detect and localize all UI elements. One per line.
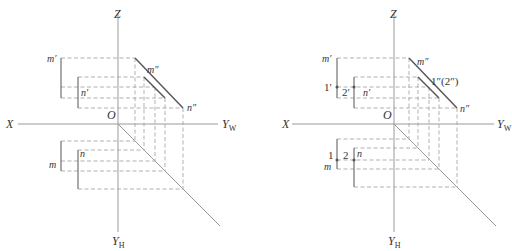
label-n-prime: n′ xyxy=(363,87,371,98)
z-axis-label: Z xyxy=(114,7,121,21)
label-n: n xyxy=(357,148,362,159)
label-2: 2 xyxy=(343,149,349,161)
label-n-double-prime: n″ xyxy=(187,102,197,113)
label-m-prime: m′ xyxy=(47,53,57,64)
left-diagram: Z X O YW YH m′ n′ m″ n″ m n xyxy=(5,7,237,250)
diagonal-45-line xyxy=(394,124,496,226)
yw-axis-label: YW xyxy=(222,117,237,133)
label-n-prime: n′ xyxy=(81,87,89,98)
point-2 xyxy=(353,159,356,162)
origin-label: O xyxy=(383,108,392,122)
z-axis-label: Z xyxy=(390,7,397,21)
yh-axis-label: YH xyxy=(112,234,125,250)
x-axis-label: X xyxy=(5,117,14,131)
label-n: n xyxy=(80,148,85,159)
label-1-2-double-prime: 1″(2″) xyxy=(431,75,459,88)
point-1 xyxy=(336,159,339,162)
label-m-prime: m′ xyxy=(322,53,332,64)
right-diagram: Z X O YW YH m′ 1′ 2′ n′ m″ 1″(2″) n″ 1 m… xyxy=(281,7,512,250)
profile-projection-segment-outer xyxy=(135,58,183,108)
x-axis-label: X xyxy=(281,117,290,131)
projection-figure: Z X O YW YH m′ n′ m″ n″ m n xyxy=(0,0,512,251)
profile-projection-segment-inner xyxy=(144,77,165,98)
label-m: m xyxy=(324,161,331,172)
yw-axis-label: YW xyxy=(497,117,512,133)
diagonal-45-line xyxy=(118,124,220,226)
label-n-double-prime: n″ xyxy=(460,103,470,114)
label-m-double-prime: m″ xyxy=(417,56,429,67)
point-1-prime xyxy=(336,86,339,89)
label-1-prime: 1′ xyxy=(324,81,332,93)
label-1: 1 xyxy=(328,149,334,161)
label-2-prime: 2′ xyxy=(342,86,350,98)
origin-label: O xyxy=(107,108,116,122)
yh-axis-label: YH xyxy=(388,234,401,250)
label-m-double-prime: m″ xyxy=(147,64,159,75)
label-m: m xyxy=(49,159,56,170)
point-2-prime xyxy=(353,86,356,89)
